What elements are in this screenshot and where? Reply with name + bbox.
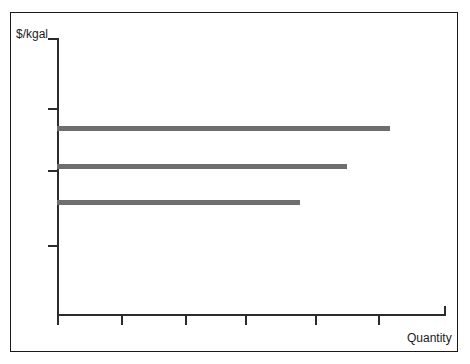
y-axis-top-cap-tick [48,38,57,40]
x-axis-tick-4 [315,315,317,325]
x-axis-right-cap-tick [444,306,446,316]
supply-step-bar-bottom [57,200,300,205]
x-axis-tick-2 [185,315,187,325]
y-axis-tick-3 [48,245,57,247]
x-axis-tick-1 [121,315,123,325]
y-axis-line [57,38,59,316]
y-axis-tick-2 [48,170,57,172]
supply-step-bar-top [57,126,390,131]
y-axis-label: $/kgal [16,27,48,41]
x-axis-tick-3 [245,315,247,325]
x-axis-label: Quantity [407,331,452,345]
figure-border [10,12,458,352]
x-axis-line [57,314,446,316]
chart-figure: $/kgal Quantity [0,0,470,364]
supply-step-bar-middle [57,164,347,169]
x-axis-tick-0 [57,315,59,325]
y-axis-tick-1 [48,108,57,110]
x-axis-tick-5 [378,315,380,325]
